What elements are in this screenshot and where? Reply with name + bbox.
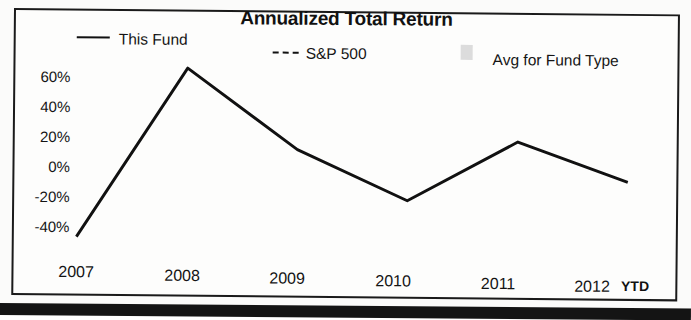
this-fund-solid-line (76, 67, 628, 240)
chart-container: Annualized Total Return This Fund S&P 50… (0, 0, 691, 317)
chart-plot-svg (0, 0, 691, 317)
